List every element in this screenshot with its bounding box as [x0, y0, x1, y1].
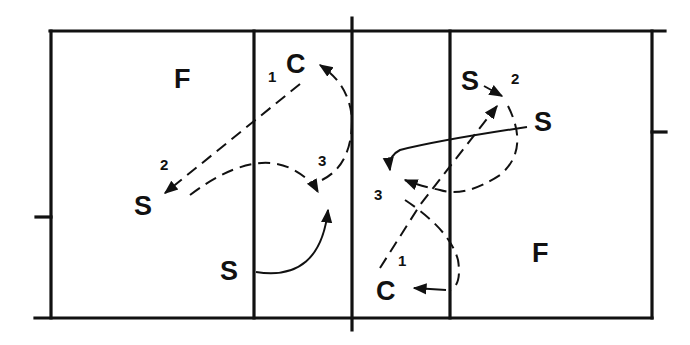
right-player-c: C	[376, 276, 396, 306]
player-s-move-right	[390, 127, 527, 170]
player-s-move	[256, 210, 328, 273]
left-court: F C 1 S 2 S 3	[134, 49, 352, 286]
left-player-s: S	[220, 256, 238, 286]
to-c-arrow	[414, 288, 446, 290]
set-loop	[405, 106, 517, 192]
left-player-c: C	[286, 49, 306, 79]
right-player-s2: S	[461, 66, 479, 96]
court-lines	[35, 18, 666, 330]
right-path-number: 3	[374, 186, 382, 203]
right-player-c-number: 1	[398, 252, 406, 269]
volleyball-court-diagram: F C 1 S 2 S 3 F S 2 S C 1 3	[0, 0, 690, 345]
left-player-s2: S	[134, 191, 152, 221]
left-path-number: 3	[318, 152, 326, 169]
left-player-c-number: 1	[268, 68, 276, 85]
s2-short-arrow	[484, 86, 502, 96]
left-player-s2-number: 2	[160, 156, 168, 173]
right-court: F S 2 S C 1 3	[374, 66, 552, 306]
right-player-s: S	[534, 107, 552, 137]
right-player-s2-number: 2	[511, 70, 519, 87]
pass-c-to-s	[165, 84, 300, 193]
right-zone-label: F	[532, 238, 549, 268]
left-zone-label: F	[174, 64, 191, 94]
